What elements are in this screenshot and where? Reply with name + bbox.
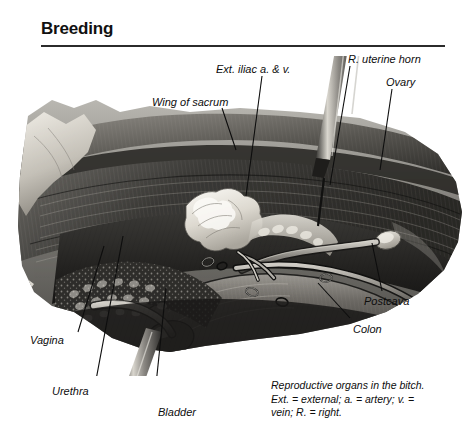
caption-line-1: Reproductive organs in the bitch. [271,379,466,393]
label-postcava: Postcava [364,295,409,307]
label-colon: Colon [353,323,382,335]
title-divider [41,45,445,47]
label-bladder: Bladder [158,406,196,418]
label-ext-iliac: Ext. iliac a. & v. [216,63,290,75]
label-urethra: Urethra [52,385,89,397]
caption-line-3: vein; R. = right. [271,406,466,420]
label-r-uterine-horn: R. uterine horn [348,53,421,65]
page-root: Breeding [0,0,468,434]
label-wing-of-sacrum: Wing of sacrum [152,96,228,108]
page-title: Breeding [41,19,113,39]
anatomy-illustration-svg [0,56,468,376]
label-ovary: Ovary [386,76,415,88]
label-vagina: Vagina [30,334,64,346]
anatomy-figure [0,56,468,376]
caption-line-2: Ext. = external; a. = artery; v. = [271,393,466,407]
figure-caption: Reproductive organs in the bitch. Ext. =… [271,379,466,420]
